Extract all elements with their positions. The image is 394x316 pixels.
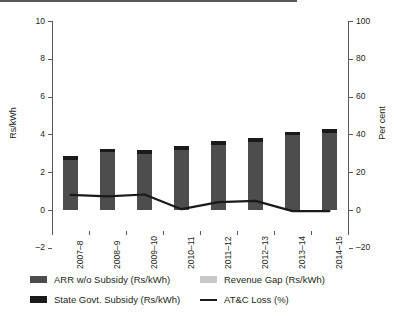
- legend-label: State Govt. Subsidy (Rs/kWh): [54, 294, 180, 305]
- legend-color-swatch: [30, 276, 47, 283]
- legend-item[interactable]: AT&C Loss (%): [200, 294, 289, 305]
- legend-item[interactable]: Revenue Gap (Rs/kWh): [200, 274, 325, 285]
- legend-item[interactable]: ARR w/o Subsidy (Rs/kWh): [30, 274, 170, 285]
- atc-loss-polyline: [71, 195, 330, 212]
- legend-line-swatch: [200, 299, 217, 301]
- legend-color-swatch: [200, 276, 217, 283]
- chart-page: Rs/kWh Per cent 1086420–2 100806040200–2…: [0, 0, 394, 316]
- legend-label: ARR w/o Subsidy (Rs/kWh): [54, 274, 170, 285]
- chart-legend: ARR w/o Subsidy (Rs/kWh)State Govt. Subs…: [0, 272, 394, 316]
- legend-label: AT&C Loss (%): [224, 294, 289, 305]
- legend-color-swatch: [30, 296, 47, 303]
- plot-area: Rs/kWh Per cent 1086420–2 100806040200–2…: [0, 0, 394, 268]
- legend-label: Revenue Gap (Rs/kWh): [224, 274, 325, 285]
- legend-item[interactable]: State Govt. Subsidy (Rs/kWh): [30, 294, 180, 305]
- atc-loss-line-series: [0, 0, 394, 268]
